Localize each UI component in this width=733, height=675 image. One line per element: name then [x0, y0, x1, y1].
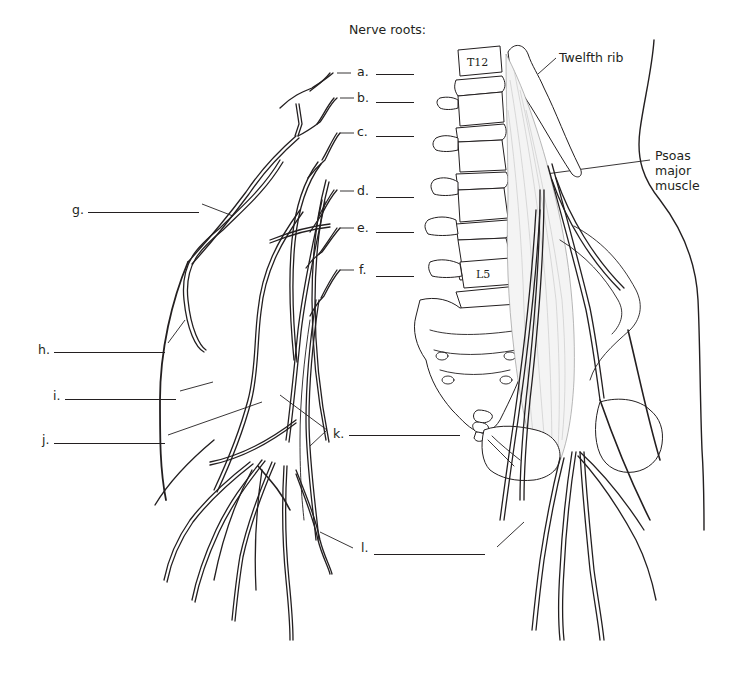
label-f: f.	[359, 263, 366, 277]
label-a-letter: a.	[357, 64, 369, 79]
label-d: d.	[357, 184, 369, 198]
answer-blank-a[interactable]	[376, 74, 414, 75]
answer-blank-e[interactable]	[376, 232, 414, 233]
answer-blank-b[interactable]	[376, 102, 414, 103]
label-e-letter: e.	[357, 220, 369, 235]
lumbar-plexus-diagram: Nerve roots: a. b. c. d. e. f. g. h. i. …	[0, 0, 733, 675]
answer-blank-i[interactable]	[65, 399, 176, 400]
answer-blank-d[interactable]	[376, 197, 414, 198]
label-b-letter: b.	[357, 90, 369, 105]
label-c: c.	[357, 125, 368, 139]
answer-blank-c[interactable]	[376, 136, 414, 137]
label-i: i.	[53, 389, 60, 403]
vertebra-l5-label: L5	[476, 268, 490, 281]
label-d-letter: d.	[357, 183, 369, 198]
nerve-roots-heading: Nerve roots:	[349, 22, 426, 37]
label-c-letter: c.	[357, 124, 368, 139]
answer-blank-j[interactable]	[54, 443, 165, 444]
psoas-label-line-3: muscle	[655, 178, 700, 193]
answer-blank-k[interactable]	[349, 435, 460, 436]
label-g: g.	[72, 203, 84, 217]
label-e: e.	[357, 221, 369, 235]
psoas-label-line-1: Psoas	[655, 148, 700, 163]
twelfth-rib-label: Twelfth rib	[559, 50, 623, 65]
label-j: j.	[42, 433, 49, 447]
label-f-letter: f.	[359, 262, 366, 277]
vertebra-t12-label: T12	[467, 56, 488, 69]
answer-blank-l[interactable]	[374, 554, 485, 555]
psoas-label-line-2: major	[655, 163, 700, 178]
label-l: l.	[361, 541, 368, 555]
psoas-label: Psoas major muscle	[655, 148, 700, 193]
label-k: k.	[333, 427, 344, 441]
lumbar-plexus-nerves	[155, 73, 340, 640]
label-b: b.	[357, 91, 369, 105]
answer-blank-g[interactable]	[88, 212, 199, 213]
answer-blank-f[interactable]	[376, 276, 414, 277]
label-a: a.	[357, 65, 369, 79]
label-h: h.	[38, 343, 50, 357]
answer-blank-h[interactable]	[54, 352, 165, 353]
